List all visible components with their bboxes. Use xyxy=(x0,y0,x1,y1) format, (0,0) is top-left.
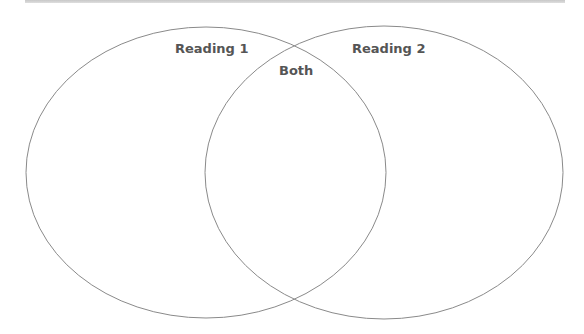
reading-2-label: Reading 2 xyxy=(352,42,426,55)
reading-1-ellipse xyxy=(26,27,386,318)
both-overlap-label: Both xyxy=(279,64,313,77)
reading-2-ellipse xyxy=(205,26,563,319)
venn-diagram xyxy=(0,0,584,334)
reading-1-label: Reading 1 xyxy=(175,42,249,55)
